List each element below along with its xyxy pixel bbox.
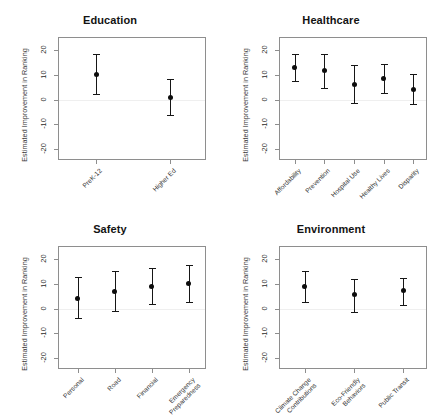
x-tick-education-1 <box>170 159 171 164</box>
error-bar-cap-healthcare-2-lower <box>351 103 358 104</box>
y-tick-healthcare-0 <box>275 50 280 51</box>
y-axis-label-environment: Estimated Improvement in Ranking <box>241 244 253 384</box>
error-bar-cap-education-1-upper <box>167 79 174 80</box>
y-tick-education-4 <box>54 149 59 150</box>
y-tick-label-healthcare-2: 0 <box>260 90 269 108</box>
y-tick-label-environment-4: -20 <box>260 348 269 366</box>
x-tick-label-safety-0: Personal <box>46 376 85 415</box>
error-bar-cap-environment-1-upper <box>351 279 358 280</box>
x-tick-label-safety-3: Emergency Preparedness <box>157 376 202 418</box>
plot-area-healthcare: 20100-10-20AffordabilityPreventionHospit… <box>279 37 427 160</box>
error-bar-cap-safety-3-upper <box>186 265 193 266</box>
x-tick-label-education-1: Higher Ed <box>138 167 177 206</box>
error-bar-cap-safety-0-upper <box>75 277 82 278</box>
error-bar-cap-healthcare-1-lower <box>321 88 328 89</box>
error-bar-cap-healthcare-2-upper <box>351 65 358 66</box>
data-point-environment-0 <box>302 284 307 289</box>
y-tick-healthcare-4 <box>275 149 280 150</box>
x-tick-healthcare-2 <box>354 159 355 164</box>
y-axis-label-safety: Estimated Improvement in Ranking <box>20 244 32 384</box>
zero-reference-line-healthcare <box>280 100 426 101</box>
panel-title-healthcare: Healthcare <box>221 14 441 26</box>
x-tick-healthcare-3 <box>384 159 385 164</box>
y-tick-label-environment-2: 0 <box>260 299 269 317</box>
x-tick-healthcare-1 <box>324 159 325 164</box>
panel-healthcare: HealthcareEstimated Improvement in Ranki… <box>221 0 441 209</box>
error-bar-cap-healthcare-3-lower <box>381 93 388 94</box>
error-bar-cap-safety-1-upper <box>112 271 119 272</box>
error-bar-cap-safety-0-lower <box>75 318 82 319</box>
x-tick-label-environment-0: Climate Change Contributions <box>273 376 318 418</box>
plot-area-education: 20100-10-20PreK-12Higher Ed <box>58 37 206 160</box>
error-bar-cap-safety-1-lower <box>112 311 119 312</box>
y-tick-label-safety-1: 10 <box>39 274 48 292</box>
zero-reference-line-education <box>59 100 205 101</box>
plot-area-environment: 20100-10-20Climate Change ContributionsE… <box>279 246 427 369</box>
data-point-education-0 <box>94 72 99 77</box>
y-tick-label-safety-2: 0 <box>39 299 48 317</box>
data-point-healthcare-4 <box>411 87 416 92</box>
data-point-environment-2 <box>401 288 406 293</box>
x-tick-healthcare-4 <box>413 159 414 164</box>
x-tick-label-education-0: PreK-12 <box>64 167 103 206</box>
error-bar-cap-safety-3-lower <box>186 302 193 303</box>
panel-education: EducationEstimated Improvement in Rankin… <box>0 0 220 209</box>
y-tick-label-healthcare-1: 10 <box>260 65 269 83</box>
zero-reference-line-safety <box>59 309 205 310</box>
data-point-healthcare-3 <box>381 76 386 81</box>
y-tick-label-environment-1: 10 <box>260 274 269 292</box>
panel-title-environment: Environment <box>221 223 441 235</box>
y-tick-environment-0 <box>275 259 280 260</box>
error-bar-cap-environment-1-lower <box>351 312 358 313</box>
y-tick-healthcare-2 <box>275 100 280 101</box>
x-tick-safety-0 <box>78 368 79 373</box>
y-tick-healthcare-1 <box>275 75 280 76</box>
error-bar-cap-healthcare-0-upper <box>292 54 299 55</box>
error-bar-cap-education-0-upper <box>93 54 100 55</box>
x-tick-safety-2 <box>152 368 153 373</box>
data-point-healthcare-2 <box>352 82 357 87</box>
x-tick-label-environment-2: Public Transit <box>371 376 410 415</box>
error-bar-cap-safety-2-lower <box>149 304 156 305</box>
y-tick-safety-1 <box>54 284 59 285</box>
x-tick-label-safety-2: Financial <box>120 376 159 415</box>
error-bar-cap-healthcare-4-upper <box>410 74 417 75</box>
error-bar-cap-education-0-lower <box>93 94 100 95</box>
data-point-education-1 <box>168 95 173 100</box>
data-point-safety-1 <box>112 289 117 294</box>
data-point-environment-1 <box>352 292 357 297</box>
figure-canvas: EducationEstimated Improvement in Rankin… <box>0 0 441 418</box>
y-tick-safety-0 <box>54 259 59 260</box>
data-point-safety-3 <box>186 281 191 286</box>
y-tick-environment-2 <box>275 309 280 310</box>
x-tick-healthcare-0 <box>295 159 296 164</box>
error-bar-cap-environment-0-upper <box>302 271 309 272</box>
y-tick-label-education-4: -20 <box>39 139 48 157</box>
y-tick-label-education-2: 0 <box>39 90 48 108</box>
error-bar-cap-education-1-lower <box>167 115 174 116</box>
y-tick-label-environment-3: -10 <box>260 324 269 342</box>
error-bar-cap-safety-2-upper <box>149 268 156 269</box>
y-tick-label-education-0: 20 <box>39 41 48 59</box>
error-bar-cap-healthcare-3-upper <box>381 64 388 65</box>
y-tick-label-education-1: 10 <box>39 65 48 83</box>
y-tick-safety-3 <box>54 333 59 334</box>
x-tick-environment-2 <box>403 368 404 373</box>
y-axis-label-education: Estimated Improvement in Ranking <box>20 35 32 175</box>
data-point-safety-0 <box>75 296 80 301</box>
x-tick-environment-1 <box>354 368 355 373</box>
y-tick-label-healthcare-3: -10 <box>260 115 269 133</box>
y-tick-environment-3 <box>275 333 280 334</box>
panel-title-education: Education <box>0 14 220 26</box>
y-tick-education-2 <box>54 100 59 101</box>
y-tick-label-education-3: -10 <box>39 115 48 133</box>
data-point-safety-2 <box>149 284 154 289</box>
y-tick-safety-4 <box>54 358 59 359</box>
error-bar-cap-environment-2-upper <box>400 278 407 279</box>
y-tick-label-safety-4: -20 <box>39 348 48 366</box>
error-bar-cap-healthcare-0-lower <box>292 81 299 82</box>
y-tick-safety-2 <box>54 309 59 310</box>
y-tick-education-1 <box>54 75 59 76</box>
data-point-healthcare-1 <box>322 68 327 73</box>
y-tick-environment-4 <box>275 358 280 359</box>
